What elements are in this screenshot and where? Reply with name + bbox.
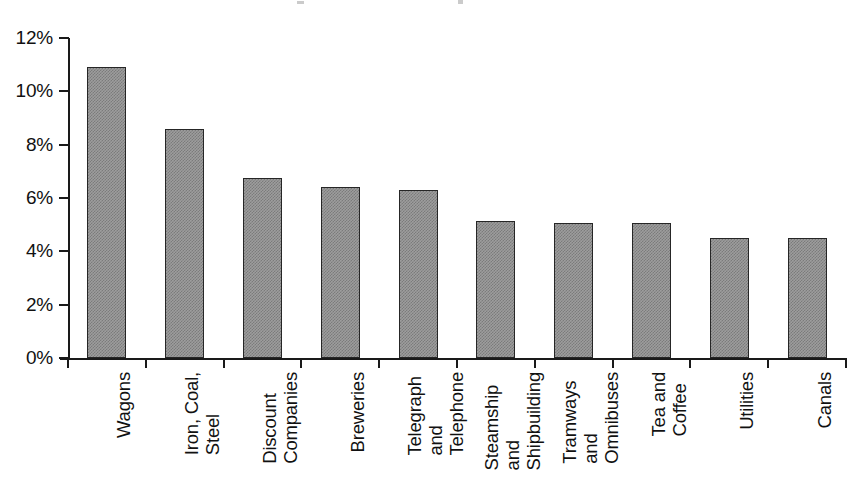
x-axis-category-label-line: Coffee [669,372,690,436]
bar [399,190,438,358]
x-axis-category-label-line: Shipbuilding [523,372,544,470]
x-axis-tick [689,358,691,368]
y-axis-tick [59,250,69,252]
x-axis-category-label: SteamshipandShipbuilding [481,372,544,470]
x-axis-category-label-line: Discount [259,372,280,464]
x-axis-category-label-line: Telephone [446,372,467,456]
y-axis-tick-label: 4% [26,241,53,260]
x-axis-tick [767,358,769,368]
x-axis-category-label-line: Steel [202,372,223,455]
x-axis-line [60,358,846,360]
x-axis-category-label-line: Telegraph [404,372,425,456]
x-axis-tick [300,358,302,368]
y-axis-tick [59,197,69,199]
x-axis-category-label-line: Breweries [347,372,368,452]
x-axis-category-label: TramwaysandOmnibuses [559,372,622,464]
x-axis-category-label: TelegraphandTelephone [404,372,467,456]
x-axis-category-label-line: Steamship [481,372,502,470]
x-axis-category-label-line: and [502,372,523,470]
y-axis-tick-label: 2% [26,295,53,314]
bar [788,238,827,358]
x-axis-category-label: Canals [814,372,835,428]
x-axis-tick [223,358,225,368]
scan-artifact [458,0,463,4]
bar [476,221,515,358]
bar [710,238,749,358]
x-axis-category-label: DiscountCompanies [259,372,301,464]
bar [321,187,360,358]
y-axis-tick [59,37,69,39]
y-axis-tick-label: 8% [26,135,53,154]
x-axis-category-label-line: Canals [814,372,835,428]
x-axis-tick [67,358,69,368]
x-axis-category-label: Wagons [113,372,134,438]
bar [632,223,671,358]
bar-chart: 12%10%8%6%4%2%0% WagonsIron, Coal,SteelD… [0,0,863,494]
x-axis-category-label-line: Tramways [559,372,580,464]
x-axis-category-label: Iron, Coal,Steel [181,372,223,455]
x-axis-tick [456,358,458,368]
y-axis-tick [59,144,69,146]
x-axis-tick [378,358,380,368]
x-axis-category-label-line: Companies [280,372,301,464]
x-axis-category-label-line: Tea and [648,372,669,436]
bar [87,67,126,358]
y-axis-tick-label: 10% [16,81,53,100]
bar [165,129,204,358]
x-axis-category-label-line: Omnibuses [601,372,622,464]
y-axis-tick [59,90,69,92]
x-axis-tick [534,358,536,368]
x-axis-tick [612,358,614,368]
bar [243,178,282,358]
y-axis-tick-label: 0% [26,348,53,367]
x-axis-category-label: Tea andCoffee [648,372,690,436]
y-axis-tick [59,304,69,306]
x-axis-category-label-line: Iron, Coal, [181,372,202,455]
x-axis-tick [145,358,147,368]
x-axis-tick [845,358,847,368]
scan-artifact [297,1,304,4]
x-axis-category-label-line: and [425,372,446,456]
y-axis-tick-label: 12% [16,28,53,47]
bar [554,223,593,358]
x-axis-category-label: Utilities [736,372,757,430]
x-axis-category-label-line: Wagons [113,372,134,438]
y-axis-tick-label: 6% [26,188,53,207]
x-axis-category-label-line: Utilities [736,372,757,430]
x-axis-category-label: Breweries [347,372,368,452]
x-axis-category-label-line: and [580,372,601,464]
